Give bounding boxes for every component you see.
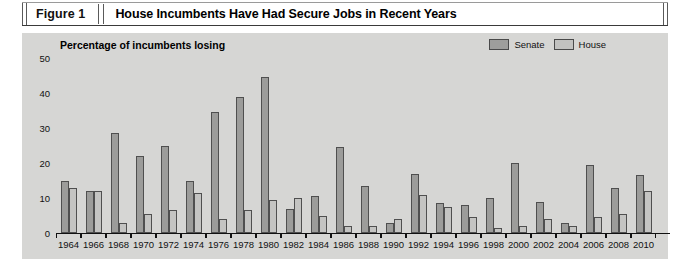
bar-senate-1996	[461, 205, 469, 233]
x-tick-label: 2010	[631, 239, 656, 255]
x-tick	[506, 234, 531, 238]
x-tick	[106, 234, 131, 238]
bar-senate-1984	[311, 196, 319, 233]
bar-house-1996	[469, 217, 477, 233]
x-tick-label: 1990	[381, 239, 406, 255]
x-tick-label: 2006	[581, 239, 606, 255]
chart-legend: Senate House	[489, 39, 606, 50]
bar-house-2006	[594, 217, 602, 233]
bar-house-1970	[144, 214, 152, 233]
x-tick	[606, 234, 631, 238]
bar-group	[206, 58, 231, 233]
plot-area	[56, 58, 656, 233]
bar-group	[331, 58, 356, 233]
bar-group	[231, 58, 256, 233]
x-tick	[81, 234, 106, 238]
legend-label-senate: Senate	[514, 39, 544, 50]
bar-senate-1972	[161, 146, 169, 234]
chart-panel: Percentage of incumbents losing Senate H…	[22, 33, 668, 259]
bar-group	[606, 58, 631, 233]
bar-senate-1978	[236, 97, 244, 234]
bar-house-1994	[444, 207, 452, 233]
x-tick	[381, 234, 406, 238]
bar-group	[581, 58, 606, 233]
x-tick	[156, 234, 181, 238]
x-tick-label: 1994	[431, 239, 456, 255]
x-tick	[456, 234, 481, 238]
bar-group	[406, 58, 431, 233]
y-tick-label: 50	[39, 53, 50, 64]
bar-group	[531, 58, 556, 233]
bar-senate-1966	[86, 191, 94, 233]
bar-senate-1980	[261, 77, 269, 233]
x-tick-label: 2002	[531, 239, 556, 255]
x-tick	[356, 234, 381, 238]
figure-title: House Incumbents Have Had Secure Jobs in…	[115, 7, 456, 21]
bar-group	[56, 58, 81, 233]
x-tick-label: 1996	[456, 239, 481, 255]
x-tick	[306, 234, 331, 238]
bar-senate-1994	[436, 203, 444, 233]
bar-house-1982	[294, 198, 302, 233]
bar-house-1972	[169, 210, 177, 233]
header-divider	[98, 4, 104, 24]
x-tick-label: 1968	[106, 239, 131, 255]
bar-group	[456, 58, 481, 233]
bar-senate-2004	[561, 223, 569, 234]
x-tick	[56, 234, 81, 238]
y-axis-title: Percentage of incumbents losing	[60, 39, 225, 51]
x-tick-label: 1966	[81, 239, 106, 255]
bar-group	[306, 58, 331, 233]
legend-label-house: House	[579, 39, 606, 50]
bar-house-1976	[219, 219, 227, 233]
bar-senate-1964	[61, 181, 69, 234]
bar-group	[431, 58, 456, 233]
y-tick-label: 30	[39, 123, 50, 134]
bar-senate-1974	[186, 181, 194, 234]
bar-group	[631, 58, 656, 233]
bar-group	[556, 58, 581, 233]
x-tick	[206, 234, 231, 238]
y-axis-labels: 01020304050	[22, 58, 52, 233]
x-tick-label: 1982	[281, 239, 306, 255]
x-tick-label: 1992	[406, 239, 431, 255]
x-tick	[131, 234, 156, 238]
bar-group	[381, 58, 406, 233]
x-tick	[406, 234, 431, 238]
bar-group	[256, 58, 281, 233]
bar-house-2000	[519, 226, 527, 233]
x-tick	[556, 234, 581, 238]
bar-house-1964	[69, 188, 77, 234]
x-tick	[231, 234, 256, 238]
bar-house-1986	[344, 226, 352, 233]
bar-house-1980	[269, 200, 277, 233]
x-tick-label: 1988	[356, 239, 381, 255]
bar-senate-1970	[136, 156, 144, 233]
bar-house-2004	[569, 226, 577, 233]
y-tick-label: 40	[39, 88, 50, 99]
x-axis-ticks	[56, 234, 656, 238]
bar-house-1990	[394, 219, 402, 233]
bar-house-1966	[94, 191, 102, 233]
y-tick-label: 10	[39, 193, 50, 204]
x-tick	[431, 234, 456, 238]
x-tick	[181, 234, 206, 238]
bar-group	[356, 58, 381, 233]
x-tick-label: 1970	[131, 239, 156, 255]
x-tick-label: 1984	[306, 239, 331, 255]
bar-house-1968	[119, 223, 127, 234]
bar-house-2002	[544, 219, 552, 233]
legend-swatch-house	[554, 39, 574, 50]
bar-group	[181, 58, 206, 233]
figure-header: Figure 1 House Incumbents Have Had Secur…	[22, 2, 668, 26]
bar-senate-1968	[111, 133, 119, 233]
bar-house-1978	[244, 210, 252, 233]
bar-group	[506, 58, 531, 233]
x-axis-labels: 1964196619681970197219741976197819801982…	[56, 239, 656, 255]
bar-senate-2000	[511, 163, 519, 233]
x-tick-label: 1986	[331, 239, 356, 255]
x-tick-label: 1980	[256, 239, 281, 255]
bar-senate-2008	[611, 188, 619, 234]
bar-group	[106, 58, 131, 233]
x-tick	[481, 234, 506, 238]
